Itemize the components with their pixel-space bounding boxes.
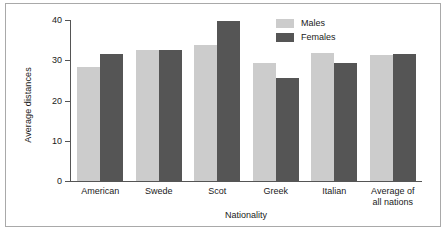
bar-males[interactable] — [194, 45, 217, 181]
bar-females[interactable] — [100, 54, 123, 181]
bar-group — [71, 20, 130, 181]
y-tick-label: 20 — [52, 96, 62, 106]
x-tick-label: Scot — [188, 186, 247, 208]
bar-males[interactable] — [136, 50, 159, 181]
legend-label: Males — [301, 18, 325, 28]
bar-group — [130, 20, 189, 181]
y-tick-label: 30 — [52, 55, 62, 65]
y-tick-mark — [65, 60, 70, 61]
bar-males[interactable] — [253, 63, 276, 181]
bar-females[interactable] — [217, 21, 240, 181]
bar-group — [364, 20, 423, 181]
x-axis-line — [70, 181, 422, 182]
x-tick-label: Greek — [247, 186, 306, 208]
bar-females[interactable] — [276, 78, 299, 181]
y-tick-mark — [65, 20, 70, 21]
legend: MalesFemales — [276, 17, 336, 45]
legend-swatch-males — [276, 19, 294, 28]
bar-chart: Average distances 010203040 AmericanSwed… — [6, 4, 440, 226]
legend-swatch-females — [276, 33, 294, 42]
bar-females[interactable] — [334, 63, 357, 181]
y-tick-mark — [65, 181, 70, 182]
x-tick-label: American — [71, 186, 130, 208]
legend-item[interactable]: Females — [276, 31, 336, 43]
x-axis-title: Nationality — [70, 210, 422, 220]
y-tick-label: 40 — [52, 15, 62, 25]
bar-groups — [71, 20, 422, 181]
bar-females[interactable] — [393, 54, 416, 181]
x-tick-label: Swede — [130, 186, 189, 208]
legend-item[interactable]: Males — [276, 17, 336, 29]
x-tick-label: Italian — [305, 186, 364, 208]
y-tick-mark — [65, 101, 70, 102]
legend-label: Females — [301, 32, 336, 42]
bar-males[interactable] — [370, 55, 393, 181]
plot-area: 010203040 — [70, 20, 422, 182]
y-tick-label: 10 — [52, 136, 62, 146]
figure-frame: Average distances 010203040 AmericanSwed… — [5, 3, 441, 227]
bar-males[interactable] — [311, 53, 334, 181]
y-tick-label: 0 — [57, 176, 62, 186]
x-axis-tick-labels: AmericanSwedeScotGreekItalianAverage ofa… — [71, 186, 422, 208]
x-tick-label: Average ofall nations — [364, 186, 423, 208]
y-tick-mark — [65, 141, 70, 142]
bar-males[interactable] — [77, 67, 100, 181]
bar-group — [188, 20, 247, 181]
y-axis-title: Average distances — [23, 50, 33, 160]
bar-females[interactable] — [159, 50, 182, 181]
